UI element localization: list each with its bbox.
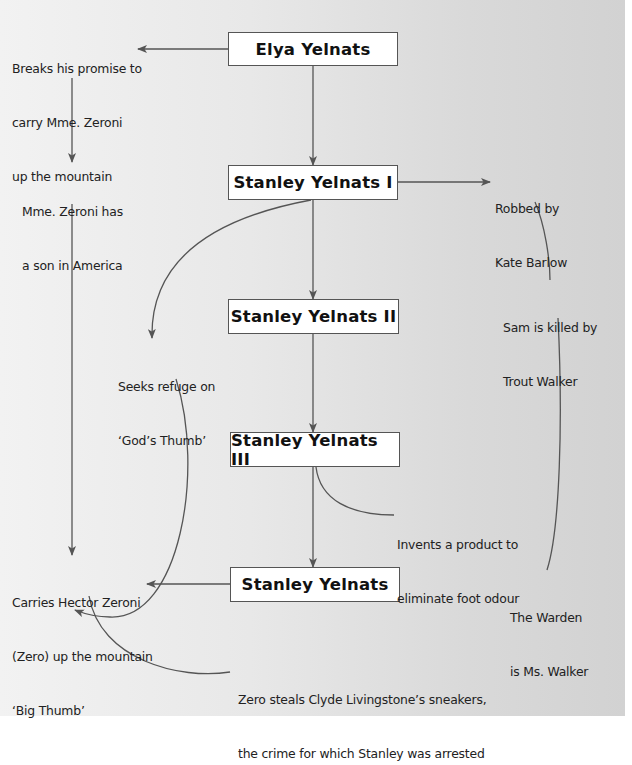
note-line: (Zero) up the mountain — [12, 648, 153, 666]
node-stanley-yelnats-iii: Stanley Yelnats III — [230, 432, 400, 467]
note-line: The Warden — [510, 609, 588, 627]
note-line: Seeks refuge on — [118, 378, 215, 396]
note-line: Invents a product to — [397, 536, 519, 554]
note-line: ‘Big Thumb’ — [12, 702, 153, 720]
note-line: Carries Hector Zeroni — [12, 594, 153, 612]
note-warden: The Warden is Ms. Walker — [510, 573, 588, 699]
note-son-in-america: Mme. Zeroni has a son in America — [22, 167, 123, 293]
note-line: Sam is killed by — [503, 319, 597, 337]
note-line: Breaks his promise to — [12, 60, 142, 78]
note-line: a son in America — [22, 257, 123, 275]
note-invents-product: Invents a product to eliminate foot odou… — [397, 500, 519, 626]
note-carries-hector: Carries Hector Zeroni (Zero) up the moun… — [12, 558, 153, 738]
note-line: eliminate foot odour — [397, 590, 519, 608]
note-line: Zero steals Clyde Livingstone’s sneakers… — [238, 691, 486, 709]
node-stanley-yelnats: Stanley Yelnats — [230, 567, 400, 602]
note-line: Kate Barlow — [495, 254, 567, 272]
note-line: Trout Walker — [503, 373, 597, 391]
note-robbed-by-kate-barlow: Robbed by Kate Barlow — [495, 164, 567, 290]
note-line: is Ms. Walker — [510, 663, 588, 681]
note-seeks-refuge: Seeks refuge on ‘God’s Thumb’ — [118, 342, 215, 468]
node-elya-yelnats: Elya Yelnats — [228, 32, 398, 66]
note-zero-steals-sneakers: Zero steals Clyde Livingstone’s sneakers… — [238, 655, 486, 765]
note-line: the crime for which Stanley was arrested — [238, 745, 486, 763]
note-line: carry Mme. Zeroni — [12, 114, 142, 132]
note-line: Mme. Zeroni has — [22, 203, 123, 221]
curve-sy3-to-invents-product — [316, 467, 394, 515]
node-stanley-yelnats-i: Stanley Yelnats I — [228, 165, 398, 200]
node-stanley-yelnats-ii: Stanley Yelnats II — [228, 299, 399, 334]
note-line: ‘God’s Thumb’ — [118, 432, 215, 450]
note-sam-killed: Sam is killed by Trout Walker — [503, 283, 597, 409]
note-line: Robbed by — [495, 200, 567, 218]
